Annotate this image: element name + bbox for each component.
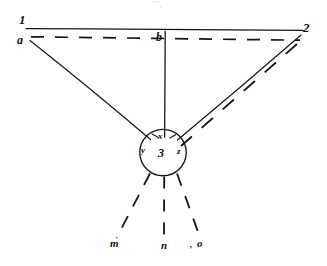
diagram-canvas: ''', 1 2 a b 3 x y z m n , o — [0, 0, 327, 266]
node-label-3: 3 — [158, 147, 164, 159]
port-label-z: z — [177, 147, 181, 156]
line-a-to-node — [30, 41, 151, 140]
terminal-o-prefix-mark: , — [190, 240, 192, 249]
line-b-to-node — [165, 32, 166, 138]
ray-to-o — [177, 174, 200, 237]
port-x-tick-right — [170, 135, 176, 139]
top-mark: ''', — [152, 1, 162, 9]
terminal-label-m: m — [110, 238, 119, 249]
node-label-1: 1 — [19, 13, 26, 26]
port-label-y: y — [141, 146, 145, 155]
ray-to-m — [117, 174, 151, 239]
node-label-2: 2 — [303, 21, 310, 34]
line-2-to-node — [178, 35, 302, 140]
diagram-svg — [0, 0, 327, 266]
top-solid-bus-line — [26, 29, 303, 31]
terminal-label-o: o — [197, 238, 203, 249]
port-label-x: x — [158, 132, 163, 141]
point-label-b: b — [156, 31, 162, 43]
point-label-a: a — [17, 34, 23, 46]
line-2-dashed-to-node — [181, 44, 297, 146]
terminal-label-n: n — [161, 240, 167, 251]
